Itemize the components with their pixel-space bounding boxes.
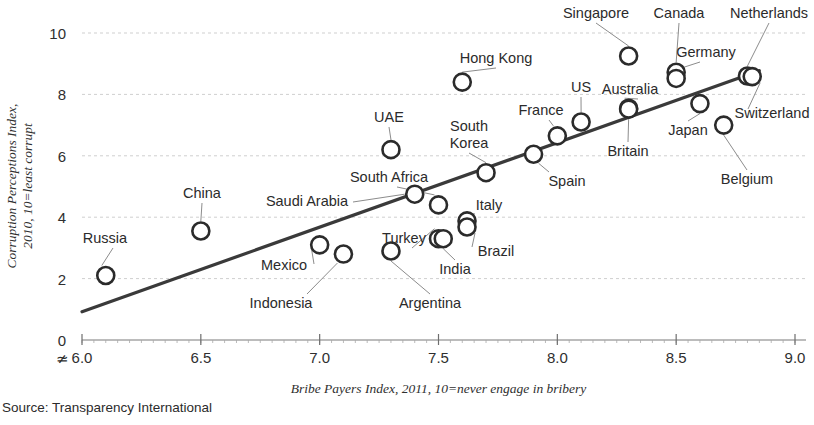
data-point-marker [478,164,495,181]
data-point-label: Singapore [563,5,629,21]
data-point-marker [382,141,399,158]
label-leader-line [688,114,700,121]
data-point-label: Mexico [261,257,307,273]
data-point-label: Germany [676,44,736,60]
x-axis-title: Bribe Payers Index, 2011, 10=never engag… [291,381,587,396]
x-tick-label: 6.0 [72,349,93,366]
label-leader-line [201,203,202,221]
x-tick-label: 6.5 [190,349,211,366]
data-point-marker [525,146,542,163]
data-point-label: Japan [668,122,708,138]
data-point-label: Indonesia [250,295,314,311]
x-tick-label: 7.0 [309,349,330,366]
data-point-label: Spain [548,173,585,189]
x-tick-label: 9.0 [785,349,806,366]
label-leader-line [443,249,455,260]
data-point-label: Brazil [478,243,514,259]
data-point-label: Netherlands [730,5,808,21]
label-leader-line [469,153,486,163]
data-point-marker [459,219,476,236]
data-point-marker [573,114,590,131]
label-leader-line [462,68,496,72]
data-point-label: China [183,185,222,201]
data-point-label: Russia [83,230,128,246]
data-point-label: Hong Kong [460,50,533,66]
y-tick-label: 8 [58,86,66,103]
data-point-marker [406,186,423,203]
y-tick-label: 0 [58,332,66,349]
data-point-marker [691,95,708,112]
data-points [97,48,760,285]
data-point-label: Argentina [399,295,462,311]
data-point-label: Canada [654,5,706,21]
label-leader-line [391,261,430,294]
label-leader-line [724,135,747,170]
data-point-marker [430,196,447,213]
y-axis-ticks: 0246810≄ [49,25,68,367]
data-point-marker [715,117,732,134]
data-point-label: Saudi Arabia [266,193,349,209]
data-point-label: Britain [607,143,648,159]
x-axis-ticks: 6.06.57.07.58.08.59.0 [72,334,806,366]
data-point-label: Turkey [382,230,427,246]
data-point-labels: RussiaChinaMexicoIndonesiaUAEArgentinaSa… [83,5,810,311]
y-tick-label: 6 [58,148,66,165]
data-point-marker [335,246,352,263]
scatter-plot: 6.06.57.07.58.08.59.0 0246810≄ RussiaChi… [0,0,814,425]
x-tick-label: 8.5 [666,349,687,366]
y-tick-label: 10 [49,25,66,42]
data-point-label: India [439,261,471,277]
data-point-marker [744,68,761,85]
data-point-marker [620,48,637,65]
data-point-marker [620,101,637,118]
source-note: Source: Transparency International [2,400,212,415]
axis-break-icon: ≄ [56,350,69,367]
data-point-label: Belgium [721,171,773,187]
data-point-marker [454,74,471,91]
y-axis-title: Corruption Perceptions Index,2010, 10=le… [4,104,35,269]
chart-container: 6.06.57.07.58.08.59.0 0246810≄ RussiaChi… [0,0,814,425]
data-point-label: SouthKorea [450,118,490,151]
y-tick-label: 4 [58,209,66,226]
label-leader-line [747,23,769,66]
data-point-marker [435,230,452,247]
data-point-label: Italy [476,197,503,213]
label-leader-line [549,120,553,126]
data-point-marker [311,236,328,253]
data-point-label: Australia [602,81,659,97]
data-point-marker [549,127,566,144]
label-leader-line [102,248,113,266]
data-point-marker [97,267,114,284]
label-leader-line [389,127,391,140]
leader-lines [102,23,769,294]
label-leader-line [596,23,629,46]
data-point-label: South Africa [350,169,429,185]
data-point-label: US [571,79,591,95]
y-tick-label: 2 [58,271,66,288]
data-point-marker [192,223,209,240]
x-tick-label: 8.0 [547,349,568,366]
data-point-marker [668,70,685,87]
x-tick-label: 7.5 [428,349,449,366]
axes [82,340,806,343]
label-leader-line [628,119,629,142]
label-leader-line [539,163,549,172]
data-point-label: Switzerland [735,105,810,121]
data-point-label: UAE [374,109,404,125]
data-point-label: France [518,102,563,118]
